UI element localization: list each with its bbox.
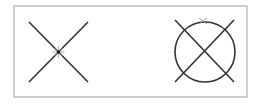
figure-crossing-lines [29,22,88,82]
diagram-frame [14,6,247,97]
diagram-canvas [0,0,259,104]
figure-circle-with-crossing-lines [175,18,235,82]
top-x-marker-icon [199,18,207,24]
